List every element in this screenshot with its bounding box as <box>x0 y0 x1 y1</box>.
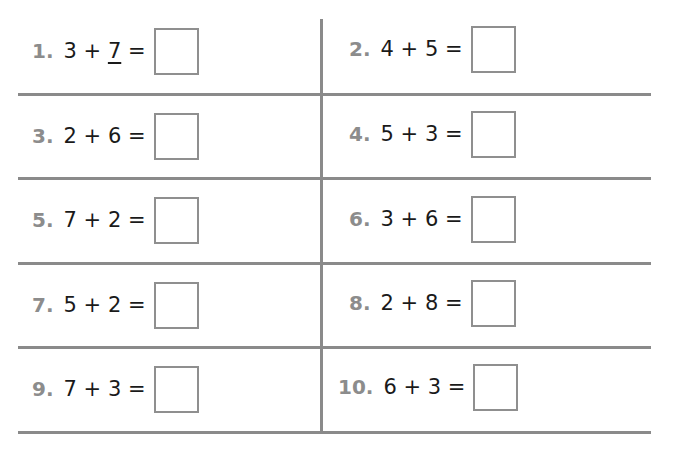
row-divider-4 <box>18 346 651 349</box>
problem-number: 2. <box>349 37 371 61</box>
problem-2: 2. 4 + 5 = <box>349 26 516 72</box>
problem-9: 9. 7 + 3 = <box>32 366 199 412</box>
problem-expression: 7 + 3 = <box>64 377 146 401</box>
answer-box[interactable] <box>154 282 199 329</box>
row-divider-1 <box>18 93 651 96</box>
problem-expression: 4 + 5 = <box>381 37 463 61</box>
problem-expression: 2 + 6 = <box>64 124 146 148</box>
problem-number: 7. <box>32 293 54 317</box>
answer-box[interactable] <box>471 280 516 327</box>
problem-4: 4. 5 + 3 = <box>349 111 516 157</box>
problem-8: 8. 2 + 8 = <box>349 280 516 326</box>
answer-box[interactable] <box>154 366 199 413</box>
answer-box[interactable] <box>154 113 199 160</box>
problem-7: 7. 5 + 2 = <box>32 282 199 328</box>
problem-number: 8. <box>349 291 371 315</box>
problem-10: 10. 6 + 3 = <box>338 364 518 410</box>
column-divider <box>320 19 323 433</box>
answer-box[interactable] <box>473 364 518 411</box>
problem-expression: 5 + 2 = <box>64 293 146 317</box>
answer-box[interactable] <box>471 111 516 158</box>
underlined-addend: 7 <box>108 39 121 63</box>
answer-box[interactable] <box>471 196 516 243</box>
problem-expression: 3 + 6 = <box>381 207 463 231</box>
answer-box[interactable] <box>154 28 199 75</box>
problem-3: 3. 2 + 6 = <box>32 113 199 159</box>
problem-number: 3. <box>32 124 54 148</box>
problem-number: 9. <box>32 377 54 401</box>
problem-1: 1. 3 + 7 = <box>32 28 199 74</box>
problem-expression: 7 + 2 = <box>64 208 146 232</box>
problem-6: 6. 3 + 6 = <box>349 196 516 242</box>
problem-expression: 5 + 3 = <box>381 122 463 146</box>
problem-number: 1. <box>32 39 54 63</box>
row-divider-3 <box>18 262 651 265</box>
problem-number: 4. <box>349 122 371 146</box>
problem-5: 5. 7 + 2 = <box>32 197 199 243</box>
row-divider-2 <box>18 177 651 180</box>
answer-box[interactable] <box>471 26 516 73</box>
problem-expression: 3 + 7 = <box>64 39 146 63</box>
problem-number: 10. <box>338 375 373 399</box>
problem-expression: 6 + 3 = <box>383 375 465 399</box>
problem-number: 6. <box>349 207 371 231</box>
answer-box[interactable] <box>154 197 199 244</box>
problem-number: 5. <box>32 208 54 232</box>
addition-worksheet: 1. 3 + 7 = 2. 4 + 5 = 3. 2 + 6 = 4. 5 + … <box>0 0 674 450</box>
problem-expression: 2 + 8 = <box>381 291 463 315</box>
row-divider-5 <box>18 431 651 434</box>
